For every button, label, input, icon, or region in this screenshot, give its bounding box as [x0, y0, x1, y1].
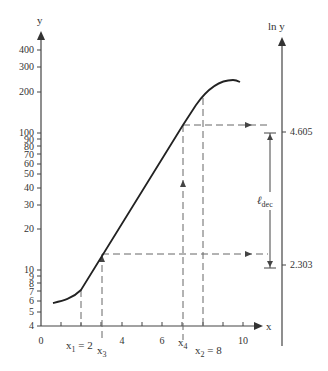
x-tick-6: 6: [160, 335, 165, 346]
x-tick-10: 10: [238, 335, 248, 346]
y-tick-300: 300: [19, 61, 34, 72]
x-axis-label: x: [266, 320, 272, 332]
arrow-right-icon: [245, 251, 252, 257]
y-axis-arrow-icon: [37, 31, 45, 40]
x4-label: x4: [178, 336, 188, 351]
data-curve: [53, 80, 240, 303]
x-tick-4: 4: [120, 335, 125, 346]
y-axis-label: y: [37, 14, 43, 26]
y-axis: y 400 300 200 100: [19, 14, 45, 331]
x-axis-arrow-icon: [254, 322, 263, 330]
y-tick-40: 40: [24, 182, 34, 193]
x-tick-0: 0: [39, 335, 44, 346]
lny-tick-2303: 2.303: [290, 259, 313, 270]
lny-axis-arrow-icon: [278, 37, 286, 46]
y-tick-4: 4: [29, 320, 34, 331]
x2-label: x2 = 8: [195, 344, 222, 359]
x1-label: x1 = 2: [66, 339, 93, 354]
lny-axis: ln y 4.605 2.303: [268, 20, 313, 346]
lny-tick-4605: 4.605: [290, 126, 313, 137]
semilog-diagram: y 400 300 200 100: [0, 0, 328, 371]
lny-axis-label: ln y: [268, 20, 285, 32]
arrow-up-icon: [180, 180, 186, 187]
ldec-dimension: ℓdec: [254, 133, 278, 268]
y-tick-20: 20: [24, 223, 34, 234]
y-tick-6: 6: [29, 295, 34, 306]
y-tick-30: 30: [24, 199, 34, 210]
y-tick-400: 400: [19, 44, 34, 55]
y-tick-200: 200: [19, 86, 34, 97]
arrow-right-icon: [245, 122, 252, 128]
arrow-up-icon: [267, 134, 273, 140]
y-tick-5: 5: [29, 306, 34, 317]
y-tick-50: 50: [24, 168, 34, 179]
x3-label: x3: [97, 344, 107, 359]
x-axis: x 0 4 6 10: [39, 320, 273, 346]
guide-lines: [81, 98, 268, 340]
arrow-down-icon: [267, 261, 273, 267]
